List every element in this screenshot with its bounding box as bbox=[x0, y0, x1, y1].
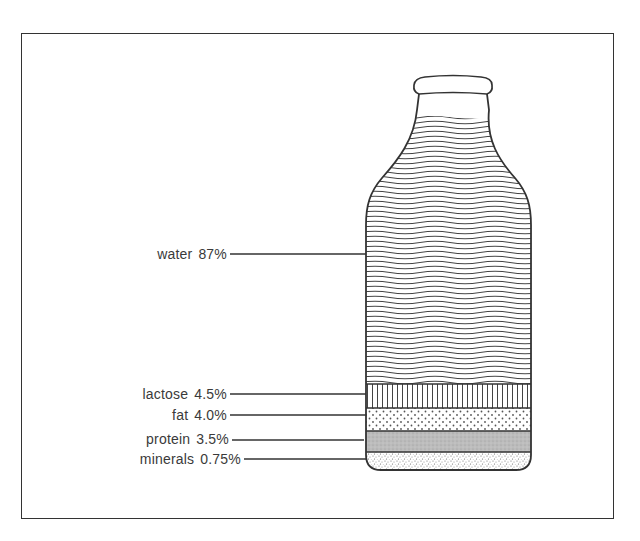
water-layer bbox=[360, 116, 540, 384]
milk-bottle-diagram bbox=[0, 0, 640, 541]
component-name: minerals bbox=[140, 451, 195, 467]
minerals-layer bbox=[366, 452, 531, 470]
fat-layer bbox=[366, 408, 531, 431]
label-protein: protein3.5% bbox=[146, 431, 229, 447]
label-minerals: minerals0.75% bbox=[140, 451, 241, 467]
leader-lines bbox=[230, 254, 366, 459]
component-value: 87% bbox=[198, 246, 227, 262]
component-name: fat bbox=[172, 407, 188, 423]
label-fat: fat4.0% bbox=[172, 407, 227, 423]
component-name: lactose bbox=[143, 386, 189, 402]
component-value: 4.5% bbox=[194, 386, 227, 402]
protein-layer bbox=[366, 431, 531, 452]
label-lactose: lactose4.5% bbox=[143, 386, 227, 402]
component-name: water bbox=[157, 246, 192, 262]
component-value: 0.75% bbox=[200, 451, 241, 467]
component-value: 4.0% bbox=[194, 407, 227, 423]
lactose-layer bbox=[366, 384, 531, 408]
component-name: protein bbox=[146, 431, 190, 447]
bottle-rim bbox=[414, 76, 492, 95]
label-water: water87% bbox=[157, 246, 227, 262]
component-value: 3.5% bbox=[196, 431, 229, 447]
